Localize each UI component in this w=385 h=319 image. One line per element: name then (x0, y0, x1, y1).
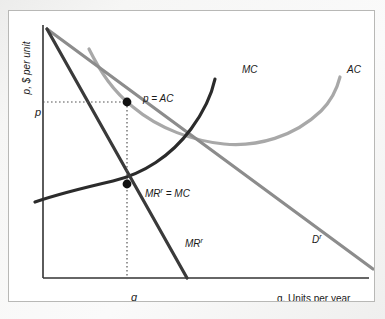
demand-curve (47, 29, 373, 269)
profit-max-point-label: MRr = MC (145, 187, 190, 199)
plot-frame: p, $ per unit q, Units per year p q p = … (8, 10, 375, 302)
profit-max-label-suffix: = MC (163, 188, 190, 199)
guide-lines-group (43, 102, 127, 278)
demand-label-sup: r (319, 233, 321, 240)
tangency-point-label: p = AC (143, 94, 173, 104)
y-axis-title: p, $ per unit (22, 25, 32, 111)
mr-curve-label: MRr (185, 237, 203, 249)
y-tick-label-p: p (35, 107, 41, 118)
profit-max-label-base: MR (145, 188, 161, 199)
ac-curve-label: AC (347, 65, 361, 75)
mc-curve-label: MC (242, 65, 258, 75)
demand-curve-label: Dr (312, 233, 322, 245)
x-tick-label-q: q (131, 292, 137, 302)
x-axis-title: q, Units per year (277, 294, 350, 302)
mr-label-sup: r (201, 237, 203, 244)
x-axis-title-rest: , Units per year (283, 293, 351, 302)
tangency-point-marker (123, 98, 132, 107)
profit-max-point-marker (123, 180, 132, 189)
figure-root: p, $ per unit q, Units per year p q p = … (0, 0, 385, 319)
chart-canvas (9, 11, 374, 301)
mr-label-base: MR (185, 238, 201, 249)
